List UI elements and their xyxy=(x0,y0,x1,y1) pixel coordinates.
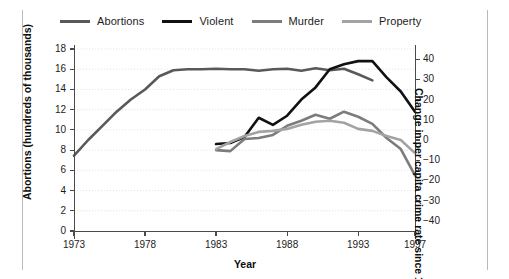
right-tick-label: 30 xyxy=(423,73,447,84)
axis-tick xyxy=(416,59,420,60)
legend-swatch-icon xyxy=(252,20,282,23)
x-tick-label: 1993 xyxy=(338,239,378,250)
axis-tick xyxy=(70,170,74,171)
chart-legend: AbortionsViolentMurderProperty xyxy=(60,13,460,29)
axis-tick xyxy=(144,232,145,236)
axis-tick xyxy=(70,129,74,130)
axis-tick xyxy=(70,210,74,211)
left-tick-label: 4 xyxy=(46,185,66,196)
right-axis-title: Change in per capita crime rate since 19… xyxy=(413,88,425,240)
series-line-violent xyxy=(216,61,415,144)
right-tick-label: −10 xyxy=(423,154,447,165)
right-tick-label: 0 xyxy=(423,134,447,145)
left-tick-label: 2 xyxy=(46,205,66,216)
left-tick-label: 18 xyxy=(46,43,66,54)
legend-item-label: Violent xyxy=(199,15,233,27)
right-tick-label: −30 xyxy=(423,195,447,206)
series-canvas xyxy=(74,49,415,231)
axis-tick xyxy=(215,232,216,236)
axis-tick xyxy=(70,69,74,70)
axis-tick xyxy=(70,109,74,110)
x-axis-line xyxy=(74,231,416,232)
left-tick-label: 6 xyxy=(46,164,66,175)
x-tick-label: 1988 xyxy=(267,239,307,250)
x-tick-label: 1983 xyxy=(196,239,236,250)
legend-item-abortions[interactable]: Abortions xyxy=(60,15,144,27)
legend-item-murder[interactable]: Murder xyxy=(252,15,324,27)
legend-swatch-icon xyxy=(162,20,192,23)
left-axis-title: Abortions (hundreds of thousands) xyxy=(21,23,33,201)
legend-item-label: Property xyxy=(379,15,421,27)
left-tick-label: 12 xyxy=(46,104,66,115)
axis-tick xyxy=(358,232,359,236)
legend-item-label: Abortions xyxy=(97,15,144,27)
left-tick-label: 10 xyxy=(46,124,66,135)
right-tick-label: 40 xyxy=(423,53,447,64)
chart-figure: AbortionsViolentMurderProperty 024681012… xyxy=(0,0,509,279)
plot-area xyxy=(74,49,415,231)
right-tick-label: −20 xyxy=(423,174,447,185)
legend-item-property[interactable]: Property xyxy=(342,15,421,27)
left-tick-label: 0 xyxy=(46,225,66,236)
axis-tick xyxy=(287,232,288,236)
left-tick-label: 16 xyxy=(46,63,66,74)
left-axis-line xyxy=(74,45,75,239)
axis-tick xyxy=(70,150,74,151)
axis-tick xyxy=(73,232,74,236)
right-tick-label: 20 xyxy=(423,94,447,105)
legend-item-violent[interactable]: Violent xyxy=(162,15,233,27)
legend-swatch-icon xyxy=(60,20,90,23)
left-tick-label: 8 xyxy=(46,144,66,155)
right-tick-label: 10 xyxy=(423,114,447,125)
left-tick-label: 14 xyxy=(46,83,66,94)
axis-tick xyxy=(416,79,420,80)
axis-tick xyxy=(70,48,74,49)
x-tick-label: 1978 xyxy=(125,239,165,250)
x-tick-label: 1973 xyxy=(54,239,94,250)
axis-tick xyxy=(70,89,74,90)
axis-tick xyxy=(70,190,74,191)
figure-right-rule xyxy=(487,10,488,270)
legend-swatch-icon xyxy=(342,20,372,23)
legend-item-label: Murder xyxy=(289,15,324,27)
right-tick-label: −40 xyxy=(423,215,447,226)
x-axis-title: Year xyxy=(195,258,295,270)
